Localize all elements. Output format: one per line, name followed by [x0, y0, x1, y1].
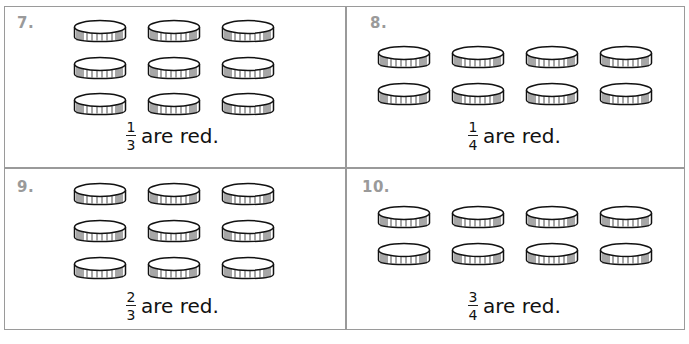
- problem-number: 9.: [17, 178, 34, 196]
- fraction-caption: 3 4 are red.: [468, 290, 561, 322]
- coin-icon: [147, 92, 201, 116]
- coin-icon: [377, 242, 431, 266]
- coin-icon: [599, 242, 653, 266]
- coin-icon: [525, 45, 579, 69]
- coin-icon: [221, 182, 275, 206]
- coin-icon: [377, 45, 431, 69]
- coin-icon: [73, 182, 127, 206]
- coin-icon: [221, 19, 275, 43]
- fraction-denominator: 4: [469, 138, 478, 152]
- caption-text: are red.: [483, 294, 561, 318]
- coin-icon: [147, 219, 201, 243]
- coin-icon: [221, 219, 275, 243]
- coin-icon: [147, 19, 201, 43]
- coin-icon: [147, 56, 201, 80]
- coin-icon: [73, 219, 127, 243]
- problem-number: 10.: [362, 178, 390, 196]
- problem-number: 7.: [17, 14, 34, 32]
- fraction-caption: 1 3 are red.: [126, 120, 219, 152]
- fraction-bar: [126, 305, 136, 306]
- coin-icon: [147, 182, 201, 206]
- coin-icon: [451, 205, 505, 229]
- horizontal-divider: [4, 167, 685, 169]
- coin-icon: [221, 256, 275, 280]
- fraction-bar: [126, 135, 136, 136]
- coin-icon: [599, 82, 653, 106]
- coin-icon: [599, 205, 653, 229]
- fraction-numerator: 3: [469, 290, 478, 304]
- coin-icon: [525, 82, 579, 106]
- coin-icon: [73, 56, 127, 80]
- coin-icon: [377, 205, 431, 229]
- fraction-bar: [468, 135, 478, 136]
- fraction-caption: 1 4 are red.: [468, 120, 561, 152]
- fraction-bar: [468, 305, 478, 306]
- coin-icon: [525, 205, 579, 229]
- coin-icon: [377, 82, 431, 106]
- fraction: 2 3: [126, 290, 136, 322]
- fraction-denominator: 3: [127, 138, 136, 152]
- coin-icon: [73, 92, 127, 116]
- coin-icon: [73, 19, 127, 43]
- coin-icon: [451, 242, 505, 266]
- fraction-numerator: 2: [127, 290, 136, 304]
- coin-icon: [451, 82, 505, 106]
- caption-text: are red.: [141, 124, 219, 148]
- fraction-numerator: 1: [469, 120, 478, 134]
- coin-icon: [599, 45, 653, 69]
- fraction: 1 4: [468, 120, 478, 152]
- caption-text: are red.: [141, 294, 219, 318]
- fraction-numerator: 1: [127, 120, 136, 134]
- coin-icon: [525, 242, 579, 266]
- fraction-caption: 2 3 are red.: [126, 290, 219, 322]
- coin-icon: [451, 45, 505, 69]
- fraction-denominator: 3: [127, 308, 136, 322]
- problem-number: 8.: [370, 14, 387, 32]
- fraction: 1 3: [126, 120, 136, 152]
- coin-icon: [73, 256, 127, 280]
- coin-icon: [147, 256, 201, 280]
- fraction-denominator: 4: [469, 308, 478, 322]
- coin-icon: [221, 56, 275, 80]
- coin-icon: [221, 92, 275, 116]
- fraction: 3 4: [468, 290, 478, 322]
- caption-text: are red.: [483, 124, 561, 148]
